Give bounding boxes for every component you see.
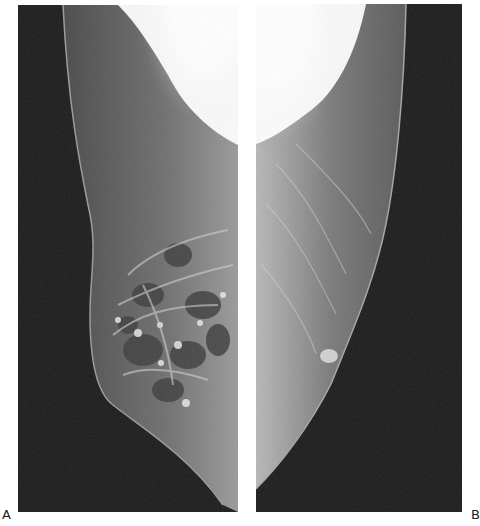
panel-label-a: A	[2, 508, 11, 521]
panel-b-image	[256, 4, 462, 512]
panel-a-image	[18, 5, 238, 512]
mammogram-a-graphic	[18, 5, 238, 512]
panel-label-b: B	[471, 508, 480, 521]
mammogram-b-graphic	[256, 4, 462, 512]
